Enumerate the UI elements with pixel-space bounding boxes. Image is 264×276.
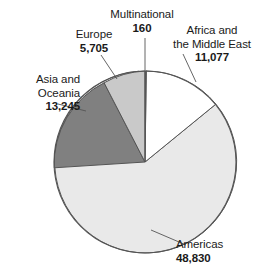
slice-label-africa-middle-east: Africa and the Middle East 11,077 bbox=[160, 24, 264, 65]
slice-label-europe: Europe 5,705 bbox=[58, 28, 130, 55]
slice-label-africa-line2: the Middle East bbox=[160, 38, 264, 52]
slice-label-asia-value: 13,245 bbox=[2, 100, 80, 114]
slice-label-africa-value: 11,077 bbox=[160, 51, 264, 65]
slice-label-multinational-name: Multinational bbox=[82, 8, 202, 22]
slice-label-americas-value: 48,830 bbox=[176, 252, 262, 266]
leader-line-europe bbox=[101, 55, 117, 79]
slice-label-europe-name: Europe bbox=[58, 28, 130, 42]
slice-label-asia-oceania: Asia and Oceania 13,245 bbox=[2, 73, 80, 114]
slice-label-europe-value: 5,705 bbox=[58, 42, 130, 56]
pie-chart-figure: Multinational 160 Africa and the Middle … bbox=[0, 0, 264, 276]
slice-label-asia-line2: Oceania bbox=[2, 87, 80, 101]
slice-label-asia-line1: Asia and bbox=[2, 73, 80, 87]
slice-label-africa-line1: Africa and bbox=[160, 24, 264, 38]
slice-label-americas-name: Americas bbox=[176, 238, 262, 252]
slice-label-americas: Americas 48,830 bbox=[176, 238, 262, 265]
